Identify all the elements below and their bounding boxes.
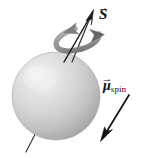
mu-subscript: spin	[111, 84, 126, 94]
spin-symbol: →S	[99, 7, 107, 22]
spin-magnetic-moment-vector	[101, 95, 130, 142]
mu-symbol: →μ	[103, 79, 111, 93]
rotation-axis-line-front	[72, 13, 92, 62]
spin-angular-momentum-vector	[64, 10, 94, 62]
spin-magnetic-moment-figure: →S →μspin	[0, 0, 145, 158]
vector-arrow-icon: →	[98, 2, 109, 13]
vector-arrow-icon: →	[101, 73, 112, 84]
spin-angular-momentum-label: →S	[99, 7, 107, 22]
spinning-sphere	[12, 52, 100, 140]
spin-magnetic-moment-label: →μspin	[103, 79, 126, 94]
